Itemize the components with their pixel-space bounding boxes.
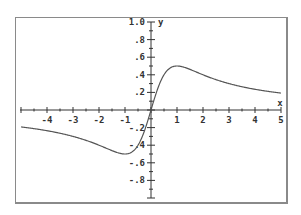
y-tick-label: -.8 <box>129 175 145 185</box>
y-tick-label: 1.0 <box>129 17 145 27</box>
y-tick-label: .6 <box>134 52 145 62</box>
y-tick-label: -.2 <box>129 123 145 133</box>
y-tick-label: -.4 <box>129 140 146 150</box>
x-tick-label: 5 <box>278 115 283 125</box>
x-tick-label: 4 <box>252 115 258 125</box>
y-tick-label: -.6 <box>129 158 145 168</box>
x-axis-label: x <box>277 98 283 108</box>
x-tick-label: -4 <box>42 115 53 125</box>
x-tick-label: -2 <box>94 115 105 125</box>
x-tick-label: -3 <box>68 115 79 125</box>
y-tick-label: .2 <box>134 87 145 97</box>
x-tick-label: 3 <box>226 115 231 125</box>
y-axis-label: y <box>158 17 164 27</box>
y-tick-label: .4 <box>134 70 145 80</box>
x-tick-label: 2 <box>200 115 205 125</box>
x-tick-label: 1 <box>174 115 179 125</box>
plot-area: -4-3-2-1123451.0.8.6.4.2-.2-.4-.6-.8xy <box>0 0 301 215</box>
y-tick-label: .8 <box>134 35 145 45</box>
